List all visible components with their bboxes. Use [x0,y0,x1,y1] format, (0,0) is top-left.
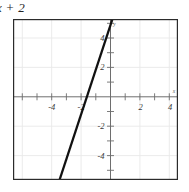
y-tick-label-neg2: -2 [97,121,105,131]
coordinate-plane: -4 -2 2 4 4 2 -2 -4 x y [13,19,178,180]
graph-figure: x + 2 [0,0,189,192]
x-tick-label-pos2: 2 [138,102,143,112]
x-tick-label-neg4: -4 [48,102,56,112]
equation-caption: x + 2 [0,0,25,15]
y-tick-label-neg4: -4 [97,151,105,161]
x-axis-label: x [172,88,176,94]
plot-area: -4 -2 2 4 4 2 -2 -4 x y [13,19,178,180]
